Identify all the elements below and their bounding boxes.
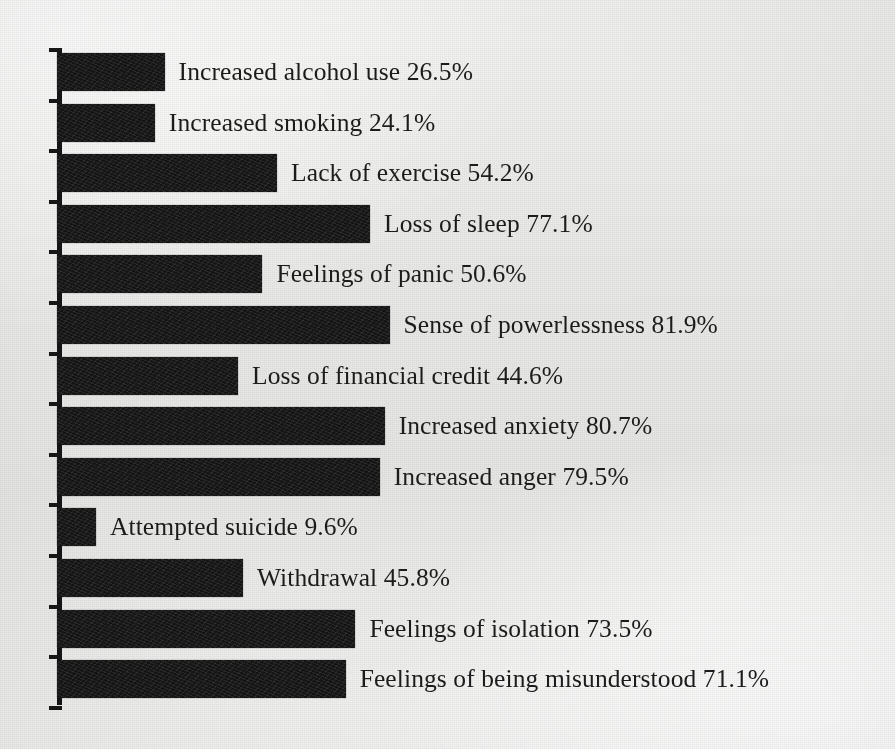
axis-tick (49, 655, 62, 659)
bar-label: Increased alcohol use 26.5% (179, 53, 473, 91)
bar-row[interactable]: Loss of financial credit 44.6% (57, 357, 895, 395)
bar[interactable] (57, 508, 96, 546)
axis-tick (49, 48, 62, 52)
bar[interactable] (57, 610, 355, 648)
bar-label: Increased anger 79.5% (394, 458, 629, 496)
bar-row[interactable]: Increased smoking 24.1% (57, 104, 895, 142)
horizontal-bar-chart: Increased alcohol use 26.5%Increased smo… (0, 0, 895, 749)
bar-label: Feelings of panic 50.6% (276, 255, 526, 293)
bar-label: Increased anxiety 80.7% (399, 407, 653, 445)
bar-label: Lack of exercise 54.2% (291, 154, 534, 192)
axis-tick (49, 149, 62, 153)
bar-row[interactable]: Feelings of isolation 73.5% (57, 610, 895, 648)
bar-row[interactable]: Increased anger 79.5% (57, 458, 895, 496)
axis-tick (49, 402, 62, 406)
bar-row[interactable]: Increased alcohol use 26.5% (57, 53, 895, 91)
axis-tick (49, 200, 62, 204)
bar-row[interactable]: Attempted suicide 9.6% (57, 508, 895, 546)
bar[interactable] (57, 306, 390, 344)
bar-label: Feelings of isolation 73.5% (369, 610, 652, 648)
bar[interactable] (57, 458, 380, 496)
bar-label: Attempted suicide 9.6% (110, 508, 358, 546)
axis-tick (49, 250, 62, 254)
bar[interactable] (57, 407, 385, 445)
bar-label: Feelings of being misunderstood 71.1% (360, 660, 770, 698)
bar[interactable] (57, 660, 346, 698)
scanned-page: Increased alcohol use 26.5%Increased smo… (0, 0, 895, 749)
bar-row[interactable]: Loss of sleep 77.1% (57, 205, 895, 243)
bar-label: Sense of powerlessness 81.9% (404, 306, 718, 344)
axis-tick (49, 706, 62, 710)
bar[interactable] (57, 255, 262, 293)
bar-row[interactable]: Sense of powerlessness 81.9% (57, 306, 895, 344)
bar[interactable] (57, 205, 370, 243)
bar-row[interactable]: Feelings of being misunderstood 71.1% (57, 660, 895, 698)
bar[interactable] (57, 357, 238, 395)
bar[interactable] (57, 154, 277, 192)
bar-row[interactable]: Feelings of panic 50.6% (57, 255, 895, 293)
axis-tick (49, 503, 62, 507)
bar[interactable] (57, 104, 155, 142)
bar-label: Increased smoking 24.1% (169, 104, 435, 142)
axis-tick (49, 453, 62, 457)
axis-tick (49, 301, 62, 305)
bar[interactable] (57, 559, 243, 597)
bar-label: Loss of sleep 77.1% (384, 205, 593, 243)
axis-tick (49, 352, 62, 356)
axis-tick (49, 99, 62, 103)
axis-tick (49, 605, 62, 609)
bar-label: Loss of financial credit 44.6% (252, 357, 563, 395)
bar-row[interactable]: Withdrawal 45.8% (57, 559, 895, 597)
bar-row[interactable]: Increased anxiety 80.7% (57, 407, 895, 445)
bar-row[interactable]: Lack of exercise 54.2% (57, 154, 895, 192)
bar-label: Withdrawal 45.8% (257, 559, 450, 597)
bar[interactable] (57, 53, 165, 91)
axis-tick (49, 554, 62, 558)
